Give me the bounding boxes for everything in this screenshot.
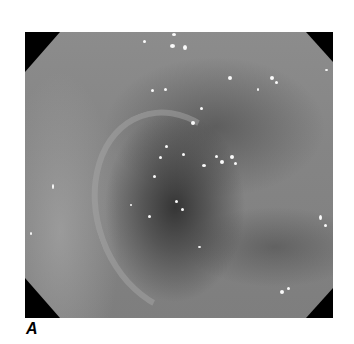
specular-highlight	[148, 215, 151, 218]
specular-highlight	[182, 153, 185, 156]
specular-highlight	[228, 76, 232, 80]
specular-highlight	[198, 246, 201, 248]
specular-highlight	[200, 107, 203, 110]
specular-highlight	[230, 155, 234, 159]
corner-mask-top-left	[25, 32, 60, 72]
corner-mask-bottom-right	[306, 288, 333, 318]
specular-highlight	[234, 162, 237, 165]
specular-highlight	[143, 40, 146, 43]
corner-mask-top-right	[306, 32, 333, 62]
specular-highlight	[175, 200, 178, 203]
specular-highlight	[191, 121, 195, 125]
specular-highlight	[275, 81, 278, 84]
specular-highlight	[220, 160, 224, 164]
specular-highlight	[164, 88, 167, 91]
endoscopic-image	[25, 32, 333, 318]
specular-highlight	[153, 175, 156, 178]
specular-highlight	[159, 156, 162, 159]
specular-highlight	[270, 76, 274, 80]
specular-highlight	[30, 232, 32, 235]
corner-mask-bottom-left	[25, 278, 60, 318]
specular-highlight	[280, 290, 284, 294]
specular-highlight	[215, 155, 218, 158]
specular-highlight	[287, 287, 290, 290]
specular-highlight	[181, 208, 184, 211]
specular-highlight	[324, 224, 327, 227]
specular-highlight	[202, 164, 206, 167]
specular-highlight	[325, 69, 328, 71]
specular-highlight	[170, 44, 175, 48]
specular-highlight	[257, 88, 259, 91]
specular-highlight	[151, 89, 154, 92]
specular-highlight	[172, 33, 176, 36]
specular-highlight	[130, 204, 132, 206]
specular-highlight	[52, 184, 54, 189]
specular-highlight	[165, 145, 168, 148]
specular-highlight	[183, 45, 187, 50]
specular-highlight	[319, 215, 322, 220]
panel-label: A	[26, 320, 38, 338]
